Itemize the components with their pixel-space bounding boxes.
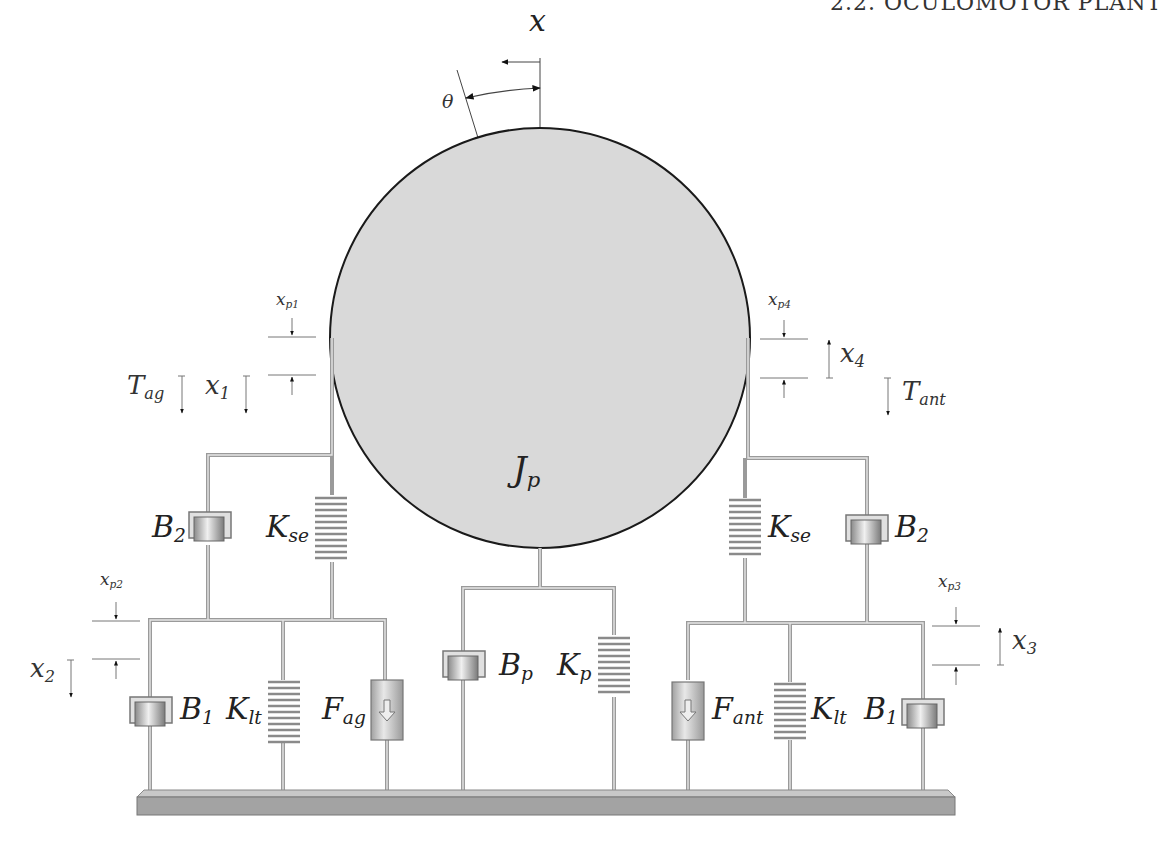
force-generator-icon <box>371 680 403 740</box>
B2-left-label: B2 <box>152 512 186 546</box>
xp3-label: xp3 <box>938 573 961 591</box>
Kse-right-label: Kse <box>768 512 811 546</box>
dashpot-icon <box>846 515 888 544</box>
Kp-label: Kp <box>557 650 591 684</box>
theta-angle-label: θ <box>442 92 453 111</box>
Bp-label: Bp <box>499 650 533 684</box>
ground-base-icon <box>137 790 955 815</box>
dashpot-icon <box>902 699 944 728</box>
Kse-left-label: Kse <box>266 512 309 546</box>
coil-spring-icon <box>729 500 761 554</box>
xp2-label: xp2 <box>100 571 123 589</box>
force-generator-icon <box>672 682 704 740</box>
displacement-markers-right <box>760 320 1004 685</box>
coil-spring-icon <box>315 498 347 558</box>
tension-antagonist-label: Tant <box>902 378 946 408</box>
xp4-label: xp4 <box>768 291 791 309</box>
plant-inertia-label: Jp <box>513 452 540 490</box>
Klt-right-label: Klt <box>811 694 847 728</box>
displacement-markers-left <box>67 318 316 697</box>
B1-left-label: B1 <box>180 694 214 728</box>
x-displacement-label: x <box>529 6 546 36</box>
x4-label: x4 <box>840 340 865 370</box>
x3-label: x3 <box>1012 627 1037 657</box>
tension-agonist-label: Tag <box>127 372 164 402</box>
B2-right-label: B2 <box>895 512 929 546</box>
dashpot-icon <box>189 512 231 541</box>
coil-spring-icon <box>774 684 806 738</box>
F-agonist-label: Fag <box>322 694 366 728</box>
F-antagonist-label: Fant <box>712 694 763 728</box>
coil-spring-icon <box>268 682 300 742</box>
xp1-label: xp1 <box>276 291 299 309</box>
page-header: 2.2. OCULOMOTOR PLANT <box>830 0 1162 15</box>
dashpot-icon <box>443 651 485 680</box>
dashpot-icon <box>130 697 172 726</box>
x1-label: x1 <box>205 372 230 402</box>
Klt-left-label: Klt <box>226 694 262 728</box>
B1-right-label: B1 <box>864 694 898 728</box>
x2-label: x2 <box>30 655 55 685</box>
coil-spring-icon <box>598 638 630 692</box>
